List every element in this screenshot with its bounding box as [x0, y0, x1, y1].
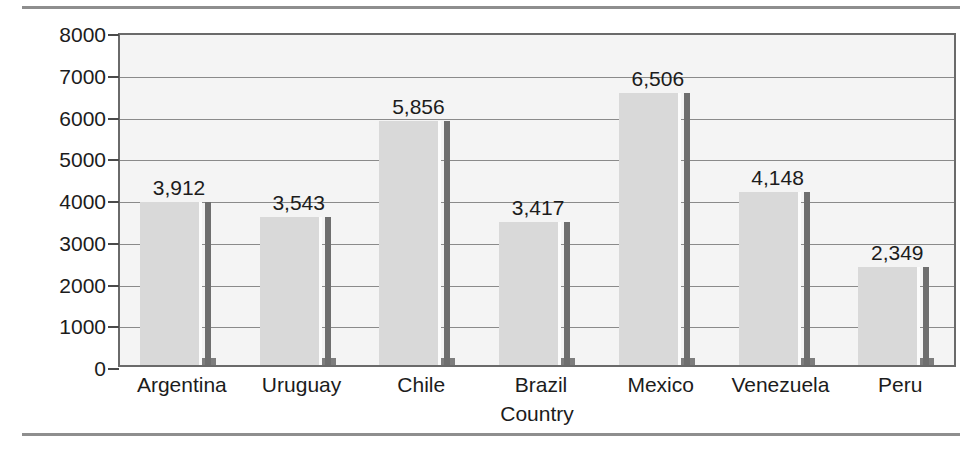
y-axis-tick-mark	[108, 76, 119, 78]
y-axis-tick-label: 5000	[59, 148, 106, 172]
bar-side-face	[564, 222, 570, 365]
y-axis-tick-label: 7000	[59, 65, 106, 89]
bar[interactable]	[858, 267, 920, 365]
y-axis-tick-mark	[108, 285, 119, 287]
bar-side-face	[444, 121, 450, 365]
x-axis-tick-label: Mexico	[627, 373, 694, 397]
y-axis-tick-label: 8000	[59, 23, 106, 47]
chart-page: 800070006000500040003000200010000 US$ Co…	[0, 0, 975, 457]
y-axis-tick-mark	[108, 159, 119, 161]
bar-value-label: 6,506	[632, 67, 685, 91]
bar-side-face	[684, 93, 690, 365]
y-axis-tick-mark	[108, 326, 119, 328]
y-axis-tick-mark	[108, 118, 119, 120]
bar-group[interactable]	[719, 31, 839, 365]
bottom-divider-rule	[22, 433, 960, 436]
y-axis-tick-mark	[108, 34, 119, 36]
y-axis-tick-label: 1000	[59, 315, 106, 339]
bar-side-face	[325, 217, 331, 365]
x-axis-tick-label: Venezuela	[731, 373, 829, 397]
x-axis-tick-label: Brazil	[515, 373, 568, 397]
bar[interactable]	[260, 217, 322, 365]
bar-value-label: 3,417	[512, 196, 565, 220]
y-axis-tick-label: 4000	[59, 190, 106, 214]
bar[interactable]	[140, 202, 202, 365]
y-axis-tick-mark	[108, 368, 119, 370]
x-axis-tick-label: Chile	[397, 373, 445, 397]
y-axis-tick-mark	[108, 243, 119, 245]
x-axis-tick-label: Peru	[878, 373, 922, 397]
bar-value-label: 4,148	[751, 166, 804, 190]
bar[interactable]	[619, 93, 681, 365]
bar[interactable]	[379, 121, 441, 365]
x-axis-title: Country	[118, 402, 956, 426]
x-axis-tick-label: Uruguay	[262, 373, 341, 397]
bar-value-label: 3,543	[272, 191, 325, 215]
bar-side-face	[205, 202, 211, 365]
y-axis-tick-label: 2000	[59, 274, 106, 298]
bar-value-label: 3,912	[153, 176, 206, 200]
bar-value-label: 5,856	[392, 95, 445, 119]
bar-side-face	[804, 192, 810, 365]
bar[interactable]	[739, 192, 801, 365]
bar-group[interactable]	[359, 31, 479, 365]
bar-group[interactable]	[838, 31, 958, 365]
top-divider-rule	[22, 6, 960, 9]
y-axis-tick-label: 6000	[59, 107, 106, 131]
x-axis-tick-label: Argentina	[137, 373, 227, 397]
y-axis-tick-label: 3000	[59, 232, 106, 256]
y-axis-tick-mark	[108, 201, 119, 203]
y-axis-tick-label: 0	[94, 357, 106, 381]
bar-side-face	[923, 267, 929, 365]
bar-value-label: 2,349	[871, 241, 924, 265]
bar[interactable]	[499, 222, 561, 365]
